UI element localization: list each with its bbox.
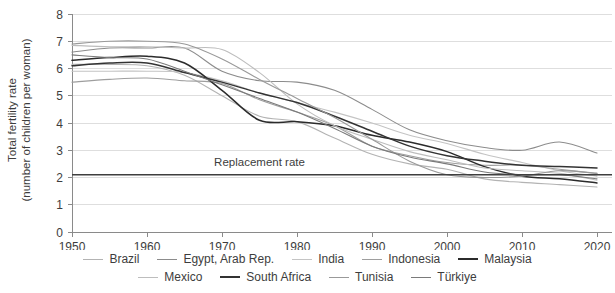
y-tick-label: 6 [56, 62, 63, 76]
x-tick-labels: 19501960197019801990200020102020 [59, 240, 611, 250]
x-tick-label: 1990 [359, 240, 386, 250]
legend-item-malaysia[interactable]: Malaysia [458, 252, 531, 266]
y-tick-label: 7 [56, 35, 63, 49]
series-line-egypt-arab-rep [72, 46, 597, 153]
fertility-rate-chart: Total fertility rate (number of children… [0, 0, 615, 293]
legend: BrazilEgypt, Arab Rep.IndiaIndonesiaMala… [0, 250, 615, 293]
legend-item-t-rkiye[interactable]: Türkiye [411, 270, 476, 284]
legend-label: Türkiye [437, 270, 476, 284]
legend-item-brazil[interactable]: Brazil [83, 252, 139, 266]
y-tick-labels: 012345678 [56, 8, 63, 240]
legend-swatch-icon [83, 259, 103, 260]
plot-area: 012345678 195019601970198019902000201020… [0, 0, 615, 250]
legend-row: BrazilEgypt, Arab Rep.IndiaIndonesiaMala… [0, 250, 615, 268]
legend-swatch-icon [458, 258, 478, 260]
x-tick-label: 1980 [284, 240, 311, 250]
legend-swatch-icon [220, 276, 240, 278]
legend-label: Egypt, Arab Rep. [183, 252, 274, 266]
legend-item-egypt-arab-rep[interactable]: Egypt, Arab Rep. [157, 252, 274, 266]
series-line-malaysia [72, 56, 597, 183]
series-lines [72, 41, 597, 187]
legend-item-india[interactable]: India [292, 252, 344, 266]
legend-swatch-icon [329, 277, 349, 278]
legend-label: South Africa [246, 270, 311, 284]
legend-swatch-icon [411, 277, 431, 278]
legend-swatch-icon [157, 259, 177, 260]
legend-item-mexico[interactable]: Mexico [138, 270, 202, 284]
legend-swatch-icon [138, 277, 158, 278]
legend-label: Mexico [164, 270, 202, 284]
legend-label: Indonesia [388, 252, 440, 266]
y-tick-label: 2 [56, 171, 63, 185]
y-tick-label: 1 [56, 198, 63, 212]
replacement-rate-label: Replacement rate [214, 156, 305, 168]
replacement-rate-annotation: Replacement rate [214, 156, 305, 168]
x-tick-label: 2010 [509, 240, 536, 250]
legend-item-south-africa[interactable]: South Africa [220, 270, 311, 284]
y-tick-label: 5 [56, 89, 63, 103]
legend-item-tunisia[interactable]: Tunisia [329, 270, 393, 284]
y-tick-label: 0 [56, 226, 63, 240]
legend-label: Malaysia [484, 252, 531, 266]
legend-label: Tunisia [355, 270, 393, 284]
x-tick-label: 1970 [209, 240, 236, 250]
y-tick-label: 4 [56, 117, 63, 131]
legend-swatch-icon [292, 259, 312, 260]
y-tick-label: 3 [56, 144, 63, 158]
x-tick-label: 1960 [134, 240, 161, 250]
x-tick-label: 1950 [59, 240, 86, 250]
legend-row: MexicoSouth AfricaTunisiaTürkiye [0, 268, 615, 286]
legend-label: India [318, 252, 344, 266]
series-line-mexico [72, 45, 597, 180]
legend-item-indonesia[interactable]: Indonesia [362, 252, 440, 266]
x-tick-label: 2000 [434, 240, 461, 250]
series-line-india [72, 71, 597, 176]
legend-swatch-icon [362, 259, 382, 260]
legend-label: Brazil [109, 252, 139, 266]
series-line-tunisia [72, 41, 597, 178]
x-tick-label: 2020 [584, 240, 611, 250]
y-tick-label: 8 [56, 8, 63, 22]
